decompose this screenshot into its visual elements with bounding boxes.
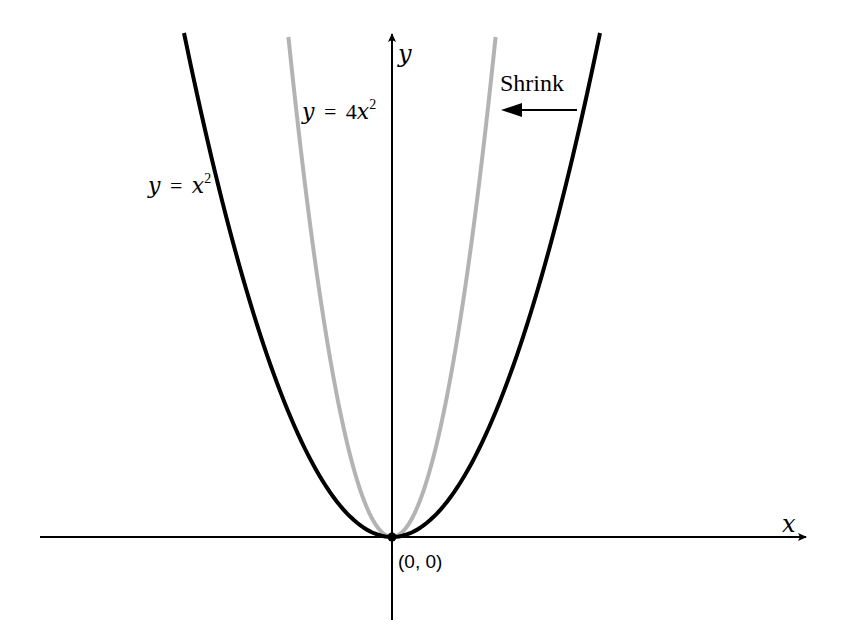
origin-point: [388, 533, 397, 542]
shrink-label: Shrink: [500, 70, 564, 96]
label-y-equals-4x-squared: y = 4x2: [301, 97, 376, 124]
label-y-equals-x-squared: y = x2: [147, 171, 211, 198]
origin-label: (0, 0): [398, 551, 442, 572]
y-axis-label: y: [397, 40, 412, 68]
x-axis-label: x: [782, 510, 796, 538]
shrink-arrowhead-icon: [501, 103, 522, 117]
parabola-diagram: x y (0, 0) y = 4x2 y = x2 Shrink: [0, 0, 849, 644]
